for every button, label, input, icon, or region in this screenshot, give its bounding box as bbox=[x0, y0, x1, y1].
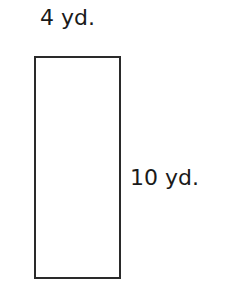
width-label: 4 yd. bbox=[40, 7, 95, 29]
height-label: 10 yd. bbox=[130, 167, 199, 189]
rectangle-shape bbox=[34, 56, 121, 279]
